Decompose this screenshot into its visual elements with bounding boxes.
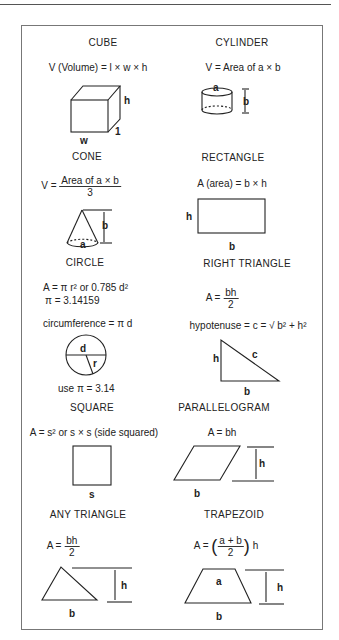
trapezoid-diagram: a h b [185, 569, 284, 622]
svg-text:b: b [216, 611, 222, 622]
svg-text:w: w [79, 135, 88, 146]
svg-text:b: b [194, 488, 200, 499]
svg-text:b: b [244, 386, 250, 397]
svg-text:h: h [277, 582, 283, 593]
svg-text:a: a [213, 82, 219, 93]
svg-text:h: h [121, 580, 127, 591]
svg-text:h: h [259, 458, 265, 469]
svg-text:h: h [213, 353, 219, 364]
svg-text:r: r [93, 358, 97, 369]
rectangle-diagram: h b [186, 199, 265, 252]
cylinder-diagram: a b [202, 82, 249, 114]
svg-text:a: a [80, 239, 86, 250]
parallelogram-diagram: h b [174, 446, 274, 499]
cone-diagram: b a [67, 210, 112, 250]
svg-text:d: d [80, 343, 86, 354]
any-triangle-diagram: h b [42, 567, 132, 619]
svg-text:a: a [216, 576, 222, 587]
right-triangle-diagram: h c b [213, 340, 279, 397]
svg-text:h: h [124, 95, 130, 106]
circle-diagram: d r [66, 335, 106, 375]
svg-text:b: b [102, 220, 108, 231]
svg-text:h: h [186, 211, 192, 222]
svg-text:b: b [69, 608, 75, 619]
square-diagram: s [73, 446, 111, 500]
svg-text:b: b [243, 96, 249, 107]
shape-diagrams: h w 1 a b b a h b d r [0, 0, 339, 640]
svg-text:c: c [252, 349, 258, 360]
svg-text:1: 1 [115, 126, 121, 137]
svg-text:s: s [89, 489, 95, 500]
cube-diagram: h w 1 [71, 86, 130, 146]
svg-text:b: b [229, 241, 235, 252]
